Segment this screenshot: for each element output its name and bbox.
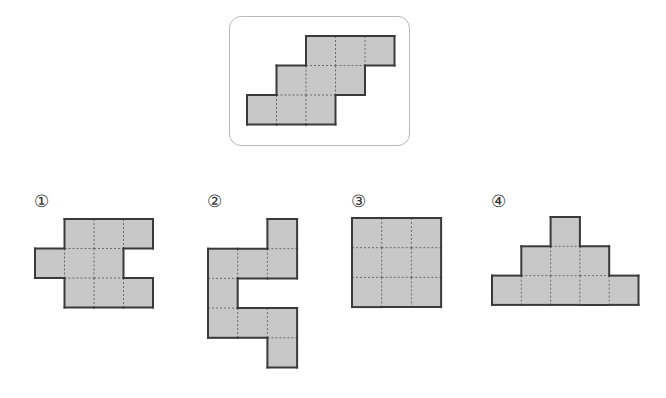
option-1-label: ①	[34, 193, 49, 210]
option-1-shape[interactable]	[35, 219, 153, 308]
option-2-label: ②	[207, 193, 222, 210]
option-3-label: ③	[351, 193, 366, 210]
option-4-shape[interactable]	[492, 217, 639, 305]
option-3-shape[interactable]	[352, 218, 441, 307]
option-2-shape[interactable]	[208, 219, 297, 368]
reference-polyomino	[247, 36, 395, 125]
option-4-label: ④	[491, 193, 506, 210]
